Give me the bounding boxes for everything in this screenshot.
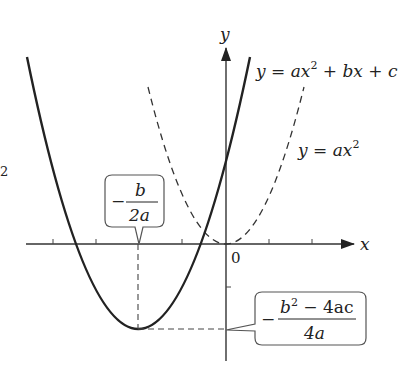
x-axis-ticks	[53, 239, 312, 244]
x-axis-label: x	[360, 234, 370, 254]
vertex-x-sign: −	[111, 191, 125, 211]
parabola-diagram: 2 x y 0 y = ax2 + bx + c y = ax2 − b 2a …	[0, 0, 410, 390]
y-axis-label: y	[219, 24, 230, 44]
vertex-y-sign: −	[261, 309, 275, 329]
vertex-y-callout: − b2 − 4ac 4a	[226, 292, 366, 345]
origin-label: 0	[231, 249, 241, 267]
solid-parabola-label: y = ax2 + bx + c	[255, 59, 398, 81]
diagram-canvas: 2 x y 0 y = ax2 + bx + c y = ax2 − b 2a …	[0, 0, 410, 390]
dashed-parabola-label: y = ax2	[297, 138, 359, 160]
vertex-y-denominator: 4a	[303, 323, 325, 343]
vertex-x-denominator: 2a	[128, 205, 150, 225]
edge-fragment-text: 2	[0, 164, 8, 179]
vertex-x-callout: − b 2a	[105, 175, 164, 244]
vertex-x-numerator: b	[135, 180, 146, 200]
